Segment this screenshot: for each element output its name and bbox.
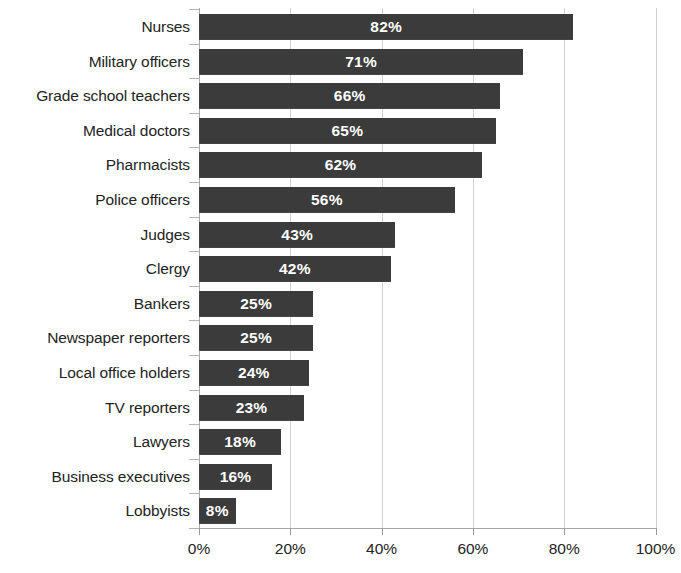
- bar-row: Judges43%: [0, 222, 681, 248]
- y-tick-mark: [189, 44, 199, 45]
- category-label: Local office holders: [59, 360, 190, 386]
- category-label: Grade school teachers: [36, 83, 190, 109]
- x-tick-mark: [199, 528, 200, 535]
- bar-value-label: 24%: [199, 360, 309, 386]
- bar-value-label: 42%: [199, 256, 391, 282]
- y-tick-mark: [189, 9, 199, 10]
- x-axis-tick-label: 60%: [438, 540, 508, 558]
- category-label: Newspaper reporters: [47, 325, 190, 351]
- y-tick-mark: [189, 217, 199, 218]
- bar-row: Bankers25%: [0, 291, 681, 317]
- y-tick-mark: [189, 459, 199, 460]
- bar-row: TV reporters23%: [0, 395, 681, 421]
- bar-value-label: 43%: [199, 222, 395, 248]
- x-axis-tick-label: 0%: [164, 540, 234, 558]
- y-tick-mark: [189, 113, 199, 114]
- horizontal-bar-chart: Nurses82%Military officers71%Grade schoo…: [0, 0, 681, 573]
- y-tick-mark: [189, 182, 199, 183]
- bar-value-label: 25%: [199, 325, 313, 351]
- category-label: Bankers: [134, 291, 190, 317]
- bar-row: Grade school teachers66%: [0, 83, 681, 109]
- category-label: Judges: [141, 222, 190, 248]
- category-label: TV reporters: [105, 395, 190, 421]
- category-label: Pharmacists: [106, 152, 190, 178]
- y-tick-mark: [189, 355, 199, 356]
- bar-value-label: 8%: [199, 498, 236, 524]
- bar-value-label: 62%: [199, 152, 482, 178]
- bar-row: Clergy42%: [0, 256, 681, 282]
- bar-value-label: 16%: [199, 464, 272, 490]
- y-tick-mark: [189, 390, 199, 391]
- x-axis-tick-label: 80%: [529, 540, 599, 558]
- bar-value-label: 25%: [199, 291, 313, 317]
- bar-value-label: 65%: [199, 118, 496, 144]
- bar-value-label: 71%: [199, 49, 523, 75]
- category-label: Clergy: [146, 256, 190, 282]
- bar-row: Medical doctors65%: [0, 118, 681, 144]
- y-tick-mark: [189, 251, 199, 252]
- x-tick-mark: [290, 528, 291, 535]
- y-tick-mark: [189, 528, 199, 529]
- x-axis-tick-label: 40%: [347, 540, 417, 558]
- x-axis-tick-label: 100%: [621, 540, 681, 558]
- y-tick-mark: [189, 320, 199, 321]
- bar-value-label: 18%: [199, 429, 281, 455]
- x-axis-line: [199, 528, 656, 529]
- category-label: Lawyers: [133, 429, 190, 455]
- x-tick-mark: [473, 528, 474, 535]
- bar-row: Business executives16%: [0, 464, 681, 490]
- bar-value-label: 56%: [199, 187, 455, 213]
- x-tick-mark: [564, 528, 565, 535]
- y-tick-mark: [189, 493, 199, 494]
- bar-row: Police officers56%: [0, 187, 681, 213]
- x-tick-mark: [656, 528, 657, 535]
- y-tick-mark: [189, 147, 199, 148]
- bar-row: Military officers71%: [0, 49, 681, 75]
- bar-row: Lawyers18%: [0, 429, 681, 455]
- bar-value-label: 66%: [199, 83, 500, 109]
- category-label: Medical doctors: [83, 118, 190, 144]
- category-label: Police officers: [95, 187, 190, 213]
- category-label: Lobbyists: [125, 498, 190, 524]
- category-label: Business executives: [51, 464, 190, 490]
- y-tick-mark: [189, 424, 199, 425]
- category-label: Military officers: [89, 49, 190, 75]
- bar-row: Newspaper reporters25%: [0, 325, 681, 351]
- bar-row: Pharmacists62%: [0, 152, 681, 178]
- x-axis-tick-label: 20%: [255, 540, 325, 558]
- bar-row: Lobbyists8%: [0, 498, 681, 524]
- y-tick-mark: [189, 286, 199, 287]
- x-tick-mark: [382, 528, 383, 535]
- bar-value-label: 23%: [199, 395, 304, 421]
- bar-row: Local office holders24%: [0, 360, 681, 386]
- category-label: Nurses: [142, 14, 191, 40]
- bar-value-label: 82%: [199, 14, 573, 40]
- y-tick-mark: [189, 78, 199, 79]
- bar-row: Nurses82%: [0, 14, 681, 40]
